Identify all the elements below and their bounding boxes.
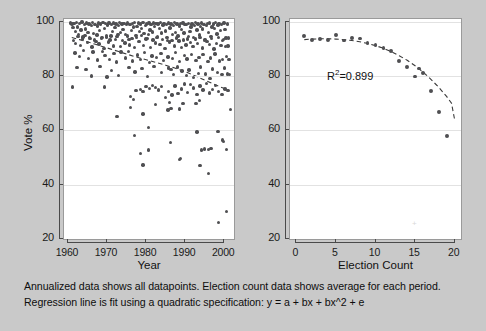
data-point (75, 66, 78, 69)
data-point (216, 130, 219, 133)
data-point (78, 55, 81, 58)
gridline (290, 239, 461, 240)
data-point (123, 41, 126, 44)
data-point (223, 66, 226, 69)
data-point (134, 89, 137, 92)
data-point (220, 93, 223, 96)
data-point (227, 36, 230, 39)
data-point (186, 91, 189, 94)
data-point (226, 89, 229, 92)
data-point (207, 31, 210, 34)
data-point (111, 30, 114, 33)
data-point (98, 29, 101, 32)
y-axis-tick (285, 129, 289, 130)
data-point (212, 47, 215, 50)
panel-annualized: 20406080100 19601970198019902000 Vote % … (6, 6, 242, 276)
data-point (227, 58, 230, 61)
data-point (182, 31, 185, 34)
gridline (64, 130, 234, 131)
data-point (128, 43, 131, 46)
data-point (90, 74, 93, 77)
data-point (159, 52, 162, 55)
x-axis-title-election-count: Election Count (289, 259, 462, 271)
y-axis-tick (59, 238, 63, 239)
data-point (201, 46, 204, 49)
data-point (141, 112, 144, 115)
data-point (211, 88, 214, 91)
data-point (326, 38, 330, 42)
y-axis-tick-label: 40 (21, 177, 54, 189)
data-point (178, 60, 181, 63)
data-point (190, 53, 193, 56)
data-point (139, 58, 142, 61)
data-point (437, 110, 441, 114)
data-point (195, 93, 198, 96)
data-point (133, 134, 136, 137)
data-point (136, 53, 139, 56)
data-point (146, 75, 149, 78)
data-point (83, 34, 86, 37)
data-point (101, 50, 104, 53)
data-point (198, 164, 201, 167)
data-point (220, 73, 223, 76)
data-point (160, 31, 163, 34)
data-point (129, 106, 132, 109)
data-point (151, 30, 154, 33)
data-point (140, 67, 143, 70)
data-point (222, 140, 225, 143)
data-point (79, 44, 82, 47)
data-point (170, 93, 173, 96)
data-point (192, 86, 195, 89)
data-point (115, 115, 118, 118)
data-point (169, 107, 172, 110)
data-point (87, 57, 90, 60)
gridline (290, 22, 461, 23)
gridline (290, 185, 461, 186)
data-point (366, 41, 370, 45)
data-point (389, 49, 393, 53)
data-point (216, 71, 219, 74)
data-point (160, 71, 163, 74)
data-point (177, 39, 180, 42)
x-axis-tick (295, 239, 296, 243)
data-point (201, 88, 204, 91)
data-point (208, 91, 211, 94)
data-point (105, 75, 108, 78)
y-axis-tick (59, 21, 63, 22)
y-axis-tick (59, 184, 63, 185)
data-point (126, 34, 129, 37)
data-point (170, 39, 173, 42)
data-point (198, 36, 201, 39)
data-point (219, 44, 222, 47)
data-point (176, 92, 179, 95)
data-point (133, 70, 136, 73)
y-axis-tick-label: 60 (247, 122, 280, 134)
data-point (221, 58, 224, 61)
data-point (132, 98, 135, 101)
data-point (302, 34, 306, 38)
x-axis-tick (106, 239, 107, 243)
data-point (201, 27, 204, 30)
data-point (208, 77, 211, 80)
data-point (127, 50, 130, 53)
data-point (161, 38, 164, 41)
data-point (71, 26, 74, 29)
data-point (310, 38, 314, 42)
data-point (178, 158, 181, 161)
data-point (203, 147, 206, 150)
data-point (445, 134, 449, 138)
data-point (86, 31, 89, 34)
data-point (174, 51, 177, 54)
data-point (180, 87, 183, 90)
data-point (195, 28, 198, 31)
data-point (141, 90, 144, 93)
data-point (138, 30, 141, 33)
plot-area-election-count: + (289, 18, 462, 240)
data-point (82, 49, 85, 52)
data-point (158, 27, 161, 30)
data-point (405, 65, 409, 69)
x-axis-tick (335, 239, 336, 243)
figure-inner: 20406080100 19601970198019902000 Vote % … (6, 6, 480, 318)
data-point (127, 66, 130, 69)
data-point (163, 47, 166, 50)
